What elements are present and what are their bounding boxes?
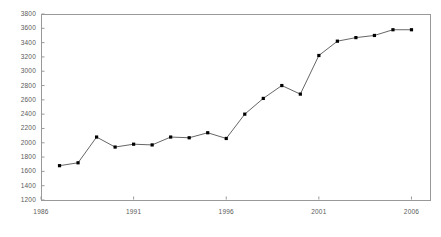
data-point-marker: [336, 40, 339, 43]
y-axis-tick-label: 2200: [2, 124, 36, 131]
y-axis-tick-label: 1600: [2, 167, 36, 174]
data-point-marker: [391, 28, 394, 31]
y-axis-tick-label: 1800: [2, 153, 36, 160]
y-axis-tick-label: 3800: [2, 10, 36, 17]
x-axis-tick-label: 1991: [114, 208, 154, 215]
y-axis-tick-label: 2400: [2, 110, 36, 117]
y-axis-tick-label: 2800: [2, 82, 36, 89]
x-axis-tick-label: 2006: [391, 208, 431, 215]
x-axis-tick-label: 1986: [21, 208, 61, 215]
data-point-marker: [280, 84, 283, 87]
series-line: [60, 30, 412, 166]
y-axis-tick-label: 3600: [2, 24, 36, 31]
y-axis-tick-label: 1400: [2, 182, 36, 189]
y-axis-tick-label: 3200: [2, 53, 36, 60]
y-axis-tick-label: 2600: [2, 96, 36, 103]
chart-canvas: [0, 0, 441, 237]
data-point-marker: [354, 36, 357, 39]
line-chart: 1200140016001800200022002400260028003000…: [0, 0, 441, 237]
y-axis-tick-label: 3400: [2, 39, 36, 46]
data-point-marker: [243, 113, 246, 116]
plot-frame: [42, 15, 431, 201]
data-point-marker: [410, 28, 413, 31]
data-point-marker: [317, 54, 320, 57]
x-axis-tick-label: 2001: [299, 208, 339, 215]
data-point-marker: [151, 143, 154, 146]
data-point-marker: [169, 135, 172, 138]
data-point-marker: [58, 164, 61, 167]
data-point-marker: [373, 34, 376, 37]
y-axis-tick-label: 2000: [2, 139, 36, 146]
data-point-marker: [262, 97, 265, 100]
x-axis-tick-label: 1996: [206, 208, 246, 215]
data-point-marker: [188, 136, 191, 139]
data-point-marker: [225, 137, 228, 140]
data-point-marker: [299, 93, 302, 96]
y-axis-tick-label: 3000: [2, 67, 36, 74]
data-point-marker: [114, 145, 117, 148]
data-point-marker: [95, 135, 98, 138]
data-point-marker: [206, 131, 209, 134]
data-point-marker: [132, 143, 135, 146]
data-point-marker: [76, 161, 79, 164]
y-axis-tick-label: 1200: [2, 196, 36, 203]
